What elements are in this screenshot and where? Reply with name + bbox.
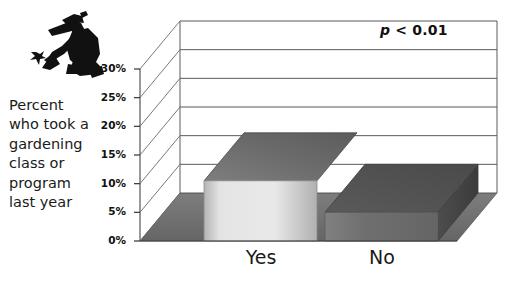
p-value-text: < 0.01 [395, 22, 447, 38]
y-tick-label-0: 0% [90, 235, 126, 245]
y-tick-label-10: 10% [90, 178, 126, 188]
gardener-silhouette-icon [22, 8, 106, 88]
y-tick-label-5: 5% [90, 206, 126, 216]
y-axis-ticks [134, 69, 140, 241]
x-tick-label-yes: Yes [221, 246, 301, 268]
chart-3d-bar: 30% 25% 20% 15% 10% 5% 0% Yes No p < 0.0… [112, 0, 517, 282]
p-symbol: p [380, 22, 390, 38]
y-tick-label-15: 15% [90, 149, 126, 159]
chart-canvas [112, 0, 517, 282]
y-tick-label-25: 25% [90, 92, 126, 102]
p-value-annotation: p < 0.01 [380, 22, 448, 38]
x-tick-label-no: No [342, 246, 422, 268]
figure-root: Percent who took a gardening class or pr… [0, 0, 517, 282]
y-tick-label-30: 30% [90, 63, 126, 73]
y-tick-label-20: 20% [90, 120, 126, 130]
